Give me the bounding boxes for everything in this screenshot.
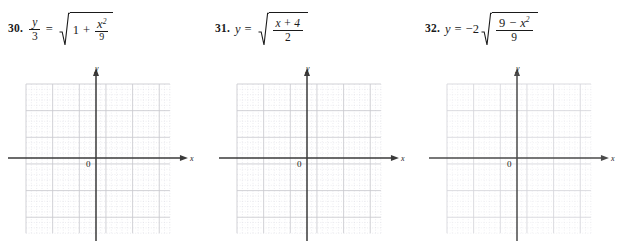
equation-31: 31. y = x + 4 2 [215,12,308,46]
numerator-exponent: 2 [103,16,107,25]
square-root-icon [481,12,492,46]
grid-svg: y x 0 [0,55,210,241]
fraction-denominator: 9 [508,31,520,43]
y-axis-label: y [305,64,310,73]
problem-number-31: 31. [215,23,230,35]
origin-label: 0 [86,159,91,169]
radical-sign-group: 1 + x2 9 [59,12,114,46]
fraction-denominator: 2 [282,31,294,43]
equals-sign: = [245,23,252,36]
problem-32: 32. y = −2 9−x2 9 y x 0 [421,0,630,241]
fraction-numerator: x2 [95,18,108,32]
x-axis-label: x [610,154,615,163]
axes [219,68,399,241]
radicand-term-one: 1 [73,24,79,37]
radicand-31: x + 4 2 [269,12,308,46]
square-root-icon [258,12,269,46]
fraction-9-minus-x2-over-9: 9−x2 9 [496,17,533,43]
fraction-numerator: y [29,16,40,29]
origin-label: 0 [507,159,512,169]
equation-30: 30. y 3 = 1 + x2 9 [8,12,113,46]
numerator-right-exponent: 2 [526,15,530,24]
fraction-denominator: 9 [97,32,106,43]
problem-number-32: 32. [425,23,440,35]
numerator-left: 9 [499,16,505,30]
lhs-variable: y [445,23,451,36]
x-axis-arrowhead [180,155,188,161]
axes [429,68,609,241]
problem-31: 31. y = x + 4 2 y x 0 [211,0,421,241]
grid-svg: y x 0 [421,55,630,241]
problem-number-30: 30. [8,23,23,35]
lhs-variable: y [235,23,241,36]
radical-sign-group: x + 4 2 [258,12,308,46]
plus-sign: + [83,24,90,37]
equation-32: 32. y = −2 9−x2 9 [425,12,538,46]
x-axis-label: x [189,154,194,163]
axes [8,68,188,241]
x-axis-label: x [400,154,405,163]
radical-sign-group: 9−x2 9 [481,12,538,46]
fraction-y-over-3: y 3 [29,16,41,41]
fraction-denominator: 3 [29,30,41,42]
coefficient: −2 [466,23,479,36]
coordinate-grid-31: y x 0 [211,55,421,241]
y-axis-label: y [515,64,520,73]
equals-sign: = [46,23,53,36]
fraction-x-plus-4-over-2: x + 4 2 [273,17,303,42]
square-root-icon [59,12,70,46]
x-axis-arrowhead [601,155,609,161]
x-axis-arrowhead [391,155,399,161]
y-axis-label: y [94,64,99,73]
fraction-x2-over-9: x2 9 [95,18,108,43]
coordinate-grid-32: y x 0 [421,55,630,241]
coordinate-grid-30: y x 0 [0,55,210,241]
fraction-numerator: x + 4 [273,17,303,30]
radicand-30: 1 + x2 9 [70,12,114,46]
minus-sign: − [509,16,516,30]
equals-sign: = [455,23,462,36]
problem-30: 30. y 3 = 1 + x2 9 [0,0,210,241]
fraction-numerator: 9−x2 [496,17,533,31]
origin-label: 0 [297,159,302,169]
radicand-32: 9−x2 9 [492,12,538,46]
grid-svg: y x 0 [211,55,421,241]
